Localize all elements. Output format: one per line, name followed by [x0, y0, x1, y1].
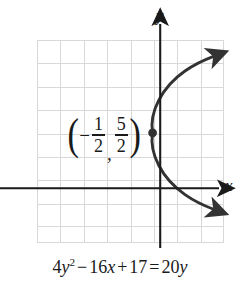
- open-paren: (: [67, 118, 78, 152]
- equation-constant: 17: [129, 257, 147, 277]
- y-axis-label: y: [156, 6, 164, 26]
- equation-minus-operator: −: [77, 257, 87, 277]
- x-numerator: 1: [92, 115, 105, 133]
- parabola-figure: y x ( − 1 2 , 5 2 ) 4y2−16x+17=20y: [0, 0, 240, 291]
- equation-coefficient-2: 16: [89, 257, 107, 277]
- x-axis-label: x: [225, 176, 233, 196]
- x-coordinate-fraction: 1 2: [92, 115, 105, 155]
- negative-sign: −: [79, 126, 90, 145]
- equation-variable-y2: y: [180, 257, 188, 277]
- coordinate-comma: ,: [107, 144, 112, 166]
- equation-caption: 4y2−16x+17=20y: [0, 256, 240, 278]
- equation-equals-operator: =: [149, 257, 159, 277]
- y-denominator: 2: [115, 137, 128, 155]
- y-coordinate-fraction: 5 2: [115, 115, 128, 155]
- vertex-coordinate-label: ( − 1 2 , 5 2 ): [58, 104, 150, 166]
- x-denominator: 2: [92, 137, 105, 155]
- equation-plus-operator: +: [117, 257, 127, 277]
- y-numerator: 5: [115, 115, 128, 133]
- close-paren: ): [129, 118, 140, 152]
- equation-exponent: 2: [69, 256, 75, 268]
- equation-variable-x: x: [107, 257, 115, 277]
- equation-coefficient-3: 20: [162, 257, 180, 277]
